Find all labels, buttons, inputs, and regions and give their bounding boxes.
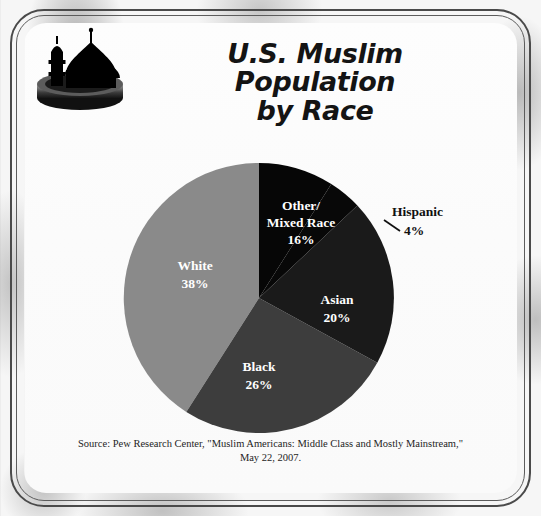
infographic-poster: U.S. Muslim Population by Race [0,0,541,516]
page-title: U.S. Muslim Population by Race [150,40,480,125]
title-line-2: by Race [150,97,480,125]
mosque-icon [28,26,132,112]
title-line-1: U.S. Muslim Population [150,40,480,95]
source-line-2: May 22, 2007. [50,451,491,465]
source-note: Source: Pew Research Center, "Muslim Ame… [50,437,491,465]
source-line-1: Source: Pew Research Center, "Muslim Ame… [50,437,491,451]
